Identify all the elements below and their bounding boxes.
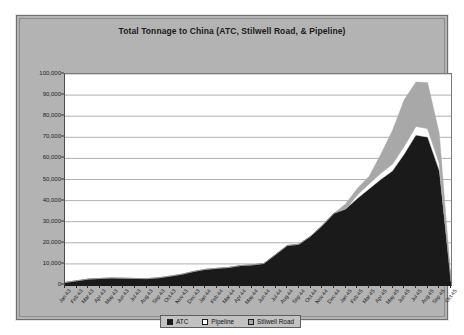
x-axis-tick: [216, 285, 217, 288]
x-axis-tick: [275, 285, 276, 288]
y-axis-tick-label: 50,000: [19, 176, 61, 182]
x-axis-tick: [99, 285, 100, 288]
y-axis-tick-label: 80,000: [19, 112, 61, 118]
x-axis-tick: [204, 285, 205, 288]
x-axis-tick: [169, 285, 170, 288]
x-axis-tick: [87, 285, 88, 288]
y-axis-tick-label: 20,000: [19, 239, 61, 245]
legend-label-stilwell: Stilwell Road: [257, 318, 294, 325]
x-axis-tick: [392, 285, 393, 288]
x-axis-tick: [450, 285, 451, 288]
x-axis-tick: [321, 285, 322, 288]
x-axis-tick: [111, 285, 112, 288]
x-axis-tick: [134, 285, 135, 288]
chart-title: Total Tonnage to China (ATC, Stilwell Ro…: [17, 26, 447, 36]
x-axis-tick: [356, 285, 357, 288]
x-axis-tick: [298, 285, 299, 288]
x-axis-tick: [263, 285, 264, 288]
x-axis-tick: [427, 285, 428, 288]
x-axis-tick: [64, 285, 65, 288]
x-axis-tick-label: Jun 44: [256, 288, 270, 304]
legend-swatch-pipeline-icon: [202, 319, 208, 325]
x-axis-tick: [146, 285, 147, 288]
x-axis-tick: [415, 285, 416, 288]
x-axis-tick: [251, 285, 252, 288]
plot-area: [64, 73, 452, 286]
x-axis-tick: [286, 285, 287, 288]
x-axis-tick: [345, 285, 346, 288]
legend-label-atc: ATC: [176, 318, 188, 325]
x-axis-tick: [158, 285, 159, 288]
y-axis-tick-label: 60,000: [19, 154, 61, 160]
chart-legend: ATC Pipeline Stilwell Road: [160, 315, 301, 328]
x-axis-tick: [310, 285, 311, 288]
y-axis-tick-label: 0: [19, 281, 61, 287]
x-axis-tick: [181, 285, 182, 288]
legend-item-pipeline: Pipeline: [202, 318, 234, 325]
legend-swatch-stilwell-icon: [248, 319, 254, 325]
x-axis-tick: [228, 285, 229, 288]
x-axis-tick: [368, 285, 369, 288]
x-axis-tick: [122, 285, 123, 288]
x-axis-tick: [333, 285, 334, 288]
plot-svg: [65, 74, 451, 285]
y-axis-tick-label: 40,000: [19, 197, 61, 203]
legend-item-stilwell: Stilwell Road: [248, 318, 294, 325]
legend-item-atc: ATC: [167, 318, 188, 325]
legend-swatch-atc-icon: [167, 319, 173, 325]
chart-frame: Total Tonnage to China (ATC, Stilwell Ro…: [16, 15, 448, 320]
y-axis-tick-label: 10,000: [19, 260, 61, 266]
x-axis-tick: [193, 285, 194, 288]
x-axis-tick: [438, 285, 439, 288]
y-axis-tick-label: 100,000: [19, 70, 61, 76]
x-axis-tick: [76, 285, 77, 288]
chart-page: Total Tonnage to China (ATC, Stilwell Ro…: [0, 0, 464, 335]
y-axis-tick-label: 70,000: [19, 133, 61, 139]
x-axis-tick: [380, 285, 381, 288]
x-axis-tick: [403, 285, 404, 288]
y-axis-tick-label: 30,000: [19, 218, 61, 224]
x-axis-tick: [239, 285, 240, 288]
legend-label-pipeline: Pipeline: [211, 318, 234, 325]
y-axis: 010,00020,00030,00040,00050,00060,00070,…: [17, 73, 61, 284]
y-axis-tick-label: 90,000: [19, 91, 61, 97]
